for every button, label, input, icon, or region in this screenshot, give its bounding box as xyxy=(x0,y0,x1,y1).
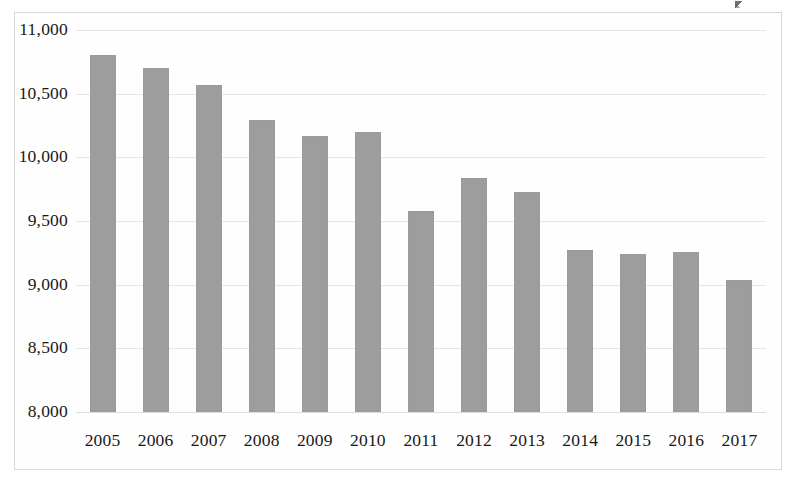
x-axis-tick-label: 2014 xyxy=(554,432,607,450)
x-axis: 2005200620072008200920102011201220132014… xyxy=(76,424,766,464)
y-axis-tick-label: 8,000 xyxy=(28,403,68,421)
x-axis-tick-label: 2008 xyxy=(235,432,288,450)
y-axis: 11,00010,50010,0009,5009,0008,5008,000 xyxy=(14,30,68,412)
bar-slot xyxy=(182,30,235,412)
gridline-8000 xyxy=(76,412,766,413)
bar-2013[interactable] xyxy=(514,192,540,412)
bar-2006[interactable] xyxy=(143,68,169,412)
bars-layer xyxy=(76,30,766,412)
x-axis-tick-label: 2017 xyxy=(713,432,766,450)
y-axis-tick-label: 9,500 xyxy=(28,212,68,230)
x-axis-tick-label: 2006 xyxy=(129,432,182,450)
x-axis-tick-label: 2007 xyxy=(182,432,235,450)
bar-2011[interactable] xyxy=(408,211,434,412)
x-axis-tick-label: 2010 xyxy=(341,432,394,450)
bar-2012[interactable] xyxy=(461,178,487,412)
bar-slot xyxy=(554,30,607,412)
x-axis-tick-label: 2016 xyxy=(660,432,713,450)
y-axis-tick-label: 8,500 xyxy=(28,339,68,357)
bar-2010[interactable] xyxy=(355,132,381,412)
bar-2016[interactable] xyxy=(673,252,699,412)
bar-2014[interactable] xyxy=(567,250,593,412)
bar-slot xyxy=(288,30,341,412)
bar-2009[interactable] xyxy=(302,136,328,412)
y-axis-tick-label: 9,000 xyxy=(28,276,68,294)
x-axis-tick-label: 2011 xyxy=(394,432,447,450)
y-axis-tick-label: 10,000 xyxy=(19,148,68,166)
x-axis-tick-label: 2009 xyxy=(288,432,341,450)
bar-2005[interactable] xyxy=(90,55,116,412)
scan-artifact-speck xyxy=(735,1,744,8)
x-axis-tick-label: 2015 xyxy=(607,432,660,450)
y-axis-tick-label: 11,000 xyxy=(19,21,68,39)
bar-2008[interactable] xyxy=(249,120,275,412)
bar-slot xyxy=(660,30,713,412)
bar-slot xyxy=(448,30,501,412)
bar-slot xyxy=(235,30,288,412)
x-axis-tick-label: 2005 xyxy=(76,432,129,450)
bar-slot xyxy=(501,30,554,412)
bar-2015[interactable] xyxy=(620,254,646,412)
bar-2017[interactable] xyxy=(726,280,752,412)
bar-slot xyxy=(713,30,766,412)
bar-slot xyxy=(129,30,182,412)
bar-2007[interactable] xyxy=(196,85,222,412)
bar-slot xyxy=(76,30,129,412)
bar-slot xyxy=(607,30,660,412)
x-axis-tick-label: 2012 xyxy=(448,432,501,450)
bar-slot xyxy=(394,30,447,412)
x-axis-tick-label: 2013 xyxy=(501,432,554,450)
bar-slot xyxy=(341,30,394,412)
plot-area xyxy=(76,30,766,412)
y-axis-tick-label: 10,500 xyxy=(19,85,68,103)
